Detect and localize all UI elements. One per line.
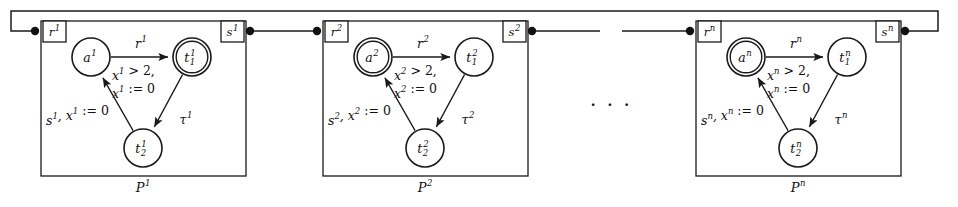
node-label-t1-Pn: t1n xyxy=(839,48,850,67)
figure-root: r1s1r1τ1x1 > 2,x1 := 0s1, x1 := 0a1t11t2… xyxy=(0,0,958,207)
panel-caption-P2: P2 xyxy=(417,178,433,195)
guard-label-line1-Pn: xn > 2, xyxy=(767,63,810,83)
guard-label-line1-P2: x2 > 2, xyxy=(394,63,437,83)
guard-label-line1-P1: x1 > 2, xyxy=(112,63,155,83)
node-label-t2-P2: t22 xyxy=(417,139,428,158)
sync-reset-label-P2: s2, x2 := 0 xyxy=(328,103,391,128)
sync-reset-label-Pn: sn, xn := 0 xyxy=(701,103,764,128)
guard-label-line2-P1: x1 := 0 xyxy=(112,81,155,101)
node-label-t1-P1: t11 xyxy=(184,48,195,67)
sync-reset-label-P1: s1, x1 := 0 xyxy=(46,103,109,128)
edge-label-tau-P1: τ1 xyxy=(180,110,193,127)
edge-t1-to-t2-P1 xyxy=(154,75,182,127)
input-connector-dot-Pn xyxy=(686,27,694,35)
edge-t1-to-t2-Pn xyxy=(809,75,837,127)
guard-label-line2-P2: x2 := 0 xyxy=(394,81,437,101)
panel-caption-P1: P1 xyxy=(135,178,151,195)
node-label-t2-P1: t21 xyxy=(135,139,146,158)
guard-label-line2-Pn: xn := 0 xyxy=(767,81,810,101)
input-connector-dot-P1 xyxy=(31,27,39,35)
output-connector-dot-P1 xyxy=(246,27,254,35)
edge-label-tau-P2: τ2 xyxy=(462,110,475,127)
edge-t1-to-t2-P2 xyxy=(436,75,464,127)
diagram-canvas: r1s1r1τ1x1 > 2,x1 := 0s1, x1 := 0a1t11t2… xyxy=(0,0,958,207)
node-label-t1-P2: t12 xyxy=(466,48,477,67)
output-connector-dot-Pn xyxy=(901,27,909,35)
edge-label-r-P2: r2 xyxy=(417,34,429,51)
edge-label-r-Pn: rn xyxy=(790,34,802,51)
output-connector-dot-P2 xyxy=(528,27,536,35)
edge-label-r-P1: r1 xyxy=(135,34,147,51)
node-label-t2-Pn: t2n xyxy=(790,139,801,158)
edge-label-tau-Pn: τn xyxy=(835,110,848,127)
panel-caption-Pn: Pn xyxy=(790,178,806,195)
input-connector-dot-P2 xyxy=(313,27,321,35)
ellipsis-label: · · · xyxy=(590,93,632,117)
